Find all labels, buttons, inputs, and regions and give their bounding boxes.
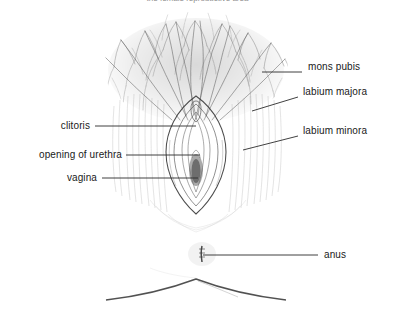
anus-marking: [188, 242, 216, 266]
label-mons-pubis: mons pubis: [308, 61, 360, 72]
label-labium-majora: labium majora: [303, 86, 367, 97]
label-opening-of-urethra: opening of urethra: [0, 149, 122, 160]
buttock-contour: [106, 268, 286, 300]
leader-labium-minora: [243, 136, 298, 150]
label-labium-minora: labium minora: [303, 125, 367, 136]
label-anus: anus: [324, 249, 346, 260]
anatomical-diagram: the female reproductive area: [0, 0, 395, 320]
label-vagina: vagina: [0, 172, 97, 183]
pubic-hair-region: [98, 12, 292, 122]
label-clitoris: clitoris: [0, 120, 90, 131]
diagram-canvas: [0, 0, 395, 320]
